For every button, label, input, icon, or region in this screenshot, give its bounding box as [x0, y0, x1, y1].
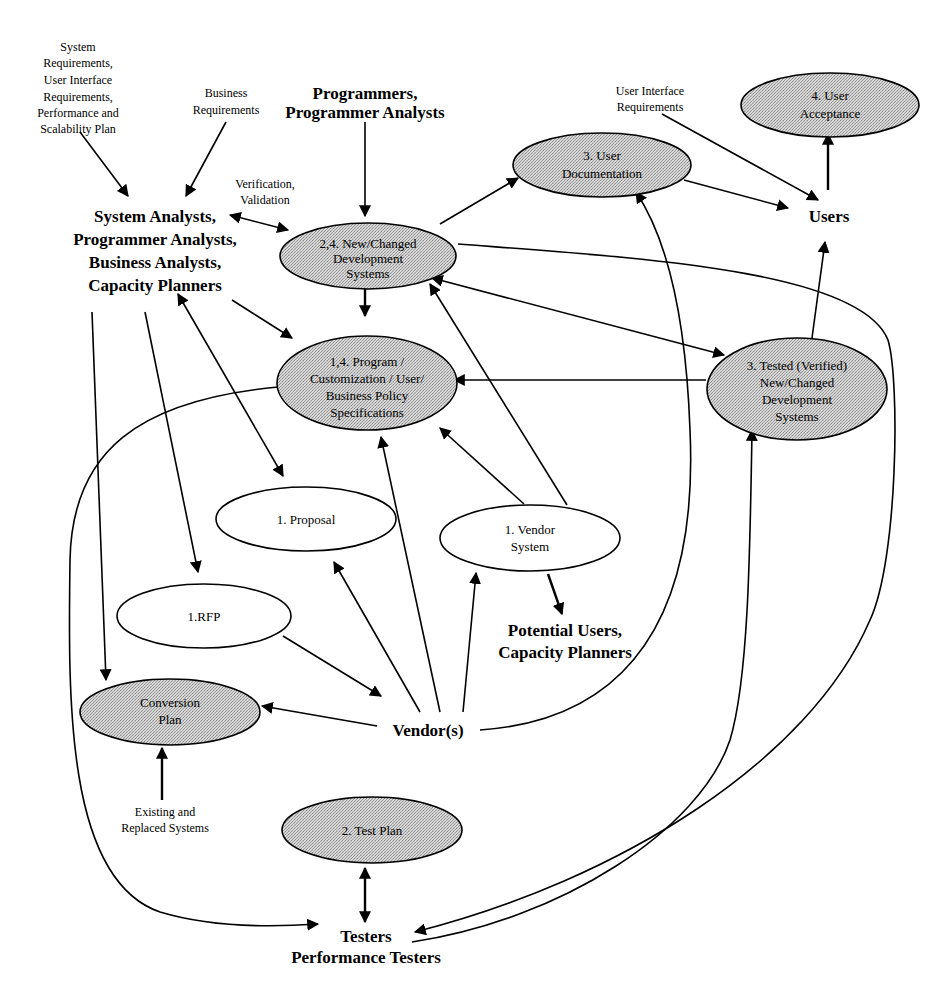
svg-text:Validation: Validation [240, 193, 289, 207]
edge-vendorsys-to-potential [548, 574, 562, 614]
actor-vendors: Vendor(s) [392, 721, 463, 740]
input-verification-validation: Verification, Validation [235, 177, 295, 207]
input-system-requirements: System Requirements, User Interface Requ… [37, 40, 119, 136]
edge-vendorsys-to-specs [440, 428, 524, 504]
node-rfp: 1.RFP [117, 584, 291, 648]
svg-text:1,4. Program /: 1,4. Program / [330, 354, 405, 369]
svg-text:System Analysts,: System Analysts, [94, 207, 216, 226]
svg-text:User Interface: User Interface [44, 73, 112, 87]
node-conversion-plan: Conversion Plan [80, 679, 260, 745]
edge-testers-to-tested [412, 430, 752, 942]
process-flow-diagram: 2,4. New/Changed Development Systems 1,4… [0, 0, 936, 993]
node-program-specifications: 1,4. Program / Customization / User/ Bus… [277, 336, 457, 430]
svg-text:Requirements,: Requirements, [43, 56, 113, 70]
svg-text:Programmer Analysts: Programmer Analysts [285, 103, 445, 122]
edge-vendors-to-vendorsys [463, 573, 476, 712]
actor-potential-users: Potential Users, Capacity Planners [498, 621, 632, 662]
edge-vendors-to-conversion [262, 706, 377, 726]
edge-newsys-tested [432, 278, 724, 355]
svg-text:3. Tested (Verified): 3. Tested (Verified) [747, 358, 847, 373]
svg-text:Systems: Systems [346, 266, 389, 281]
svg-text:Business: Business [205, 86, 248, 100]
svg-text:2. Test Plan: 2. Test Plan [342, 823, 403, 838]
svg-text:4. User: 4. User [811, 88, 849, 103]
svg-text:Performance and: Performance and [37, 106, 119, 120]
svg-text:Existing and: Existing and [135, 805, 195, 819]
svg-text:Requirements: Requirements [193, 103, 260, 117]
svg-text:Conversion: Conversion [140, 695, 200, 710]
actor-testers: Testers Performance Testers [291, 927, 441, 967]
edge-analysts-to-rfp [145, 312, 198, 572]
svg-text:Business Policy: Business Policy [326, 388, 409, 403]
svg-text:3. User: 3. User [583, 148, 621, 163]
node-label: 2,4. New/Changed [319, 236, 417, 251]
edge-analysts-proposal [178, 294, 283, 476]
node-test-plan: 2. Test Plan [282, 797, 462, 863]
edge-vendors-to-proposal [334, 562, 420, 712]
svg-text:Verification,: Verification, [235, 177, 295, 191]
edge-specs-to-testers [69, 387, 318, 926]
svg-text:Replaced Systems: Replaced Systems [121, 821, 209, 835]
node-new-changed-development-systems: 2,4. New/Changed Development Systems [280, 223, 456, 289]
svg-text:New/Changed: New/Changed [760, 375, 835, 390]
svg-text:Scalability Plan: Scalability Plan [40, 122, 116, 136]
input-ui-requirements: User Interface Requirements [616, 84, 684, 114]
svg-text:1.RFP: 1.RFP [188, 609, 221, 624]
svg-text:Systems: Systems [775, 409, 818, 424]
svg-text:Programmer Analysts,: Programmer Analysts, [73, 230, 237, 249]
node-proposal: 1. Proposal [216, 487, 396, 551]
edge-bizreq-to-analysts [186, 122, 226, 196]
edge-newsys-to-userdoc [440, 178, 518, 224]
svg-text:Requirements: Requirements [617, 100, 684, 114]
svg-text:Development: Development [333, 251, 403, 266]
input-existing-systems: Existing and Replaced Systems [121, 805, 209, 835]
edge-userdoc-to-users [684, 180, 788, 208]
edge-rfp-to-vendors [283, 636, 381, 696]
svg-text:Documentation: Documentation [562, 166, 643, 181]
svg-text:1. Proposal: 1. Proposal [277, 512, 336, 527]
edge-analysts-newsys [230, 215, 288, 230]
edge-analysts-to-specs [232, 300, 292, 338]
svg-text:Capacity Planners: Capacity Planners [498, 643, 632, 662]
svg-text:Testers: Testers [340, 927, 392, 946]
edge-vendors-to-specs [381, 437, 440, 712]
svg-text:Programmers,: Programmers, [313, 84, 418, 103]
node-tested-systems: 3. Tested (Verified) New/Changed Develop… [707, 338, 887, 440]
svg-text:System: System [60, 40, 96, 54]
actor-analysts: System Analysts, Programmer Analysts, Bu… [73, 207, 237, 295]
node-user-acceptance: 4. User Acceptance [741, 73, 919, 137]
actor-programmers: Programmers, Programmer Analysts [285, 84, 445, 122]
svg-text:Customization / User/: Customization / User/ [310, 371, 424, 386]
actor-users: Users [809, 207, 850, 226]
svg-text:Vendor(s): Vendor(s) [392, 721, 463, 740]
svg-text:Users: Users [809, 207, 850, 226]
svg-text:Plan: Plan [158, 712, 182, 727]
svg-text:Development: Development [762, 392, 832, 407]
svg-text:1. Vendor: 1. Vendor [505, 522, 556, 537]
node-vendor-system: 1. Vendor System [440, 505, 620, 571]
svg-text:Capacity Planners: Capacity Planners [88, 276, 222, 295]
svg-text:Business Analysts,: Business Analysts, [89, 253, 221, 272]
node-user-documentation: 3. User Documentation [513, 133, 691, 197]
svg-text:Specifications: Specifications [330, 405, 404, 420]
svg-text:Requirements,: Requirements, [43, 90, 113, 104]
svg-text:Performance Testers: Performance Testers [291, 948, 441, 967]
edge-sysreq-to-analysts [80, 132, 128, 196]
svg-text:User Interface: User Interface [616, 84, 684, 98]
input-business-requirements: Business Requirements [193, 86, 260, 117]
svg-text:Potential Users,: Potential Users, [508, 621, 622, 640]
svg-text:System: System [511, 539, 549, 554]
edge-analysts-to-conversion [92, 312, 106, 680]
svg-text:Acceptance: Acceptance [800, 106, 861, 121]
